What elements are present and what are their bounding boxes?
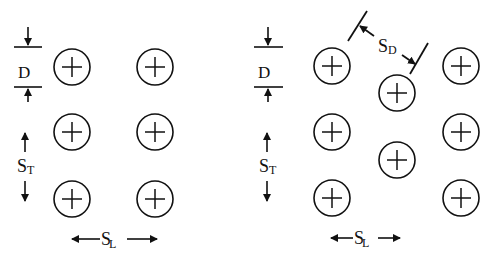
arrow-up-left-icon [360, 26, 374, 36]
aligned-tubes [54, 49, 173, 217]
tube-icon [379, 142, 415, 178]
staggered-tubes [314, 48, 479, 216]
tube-icon [137, 49, 173, 85]
longitudinal-pitch-label: SL [354, 228, 369, 250]
tube-icon [443, 180, 479, 216]
tube-icon [137, 114, 173, 150]
tube-icon [54, 181, 90, 217]
arrow-down-right-icon [402, 55, 415, 64]
extension-line [348, 11, 367, 41]
tube-icon [443, 48, 479, 84]
tube-bank-diagram: D ST SL D [0, 0, 499, 264]
diameter-label: D [258, 63, 270, 82]
tube-icon [443, 114, 479, 150]
diagram-canvas: D ST SL D [0, 0, 499, 264]
aligned-panel: D ST SL [14, 27, 173, 251]
transverse-pitch-label: ST [259, 156, 277, 177]
tube-icon [54, 49, 90, 85]
longitudinal-pitch-label: SL [101, 229, 116, 251]
tube-icon [314, 48, 350, 84]
tube-icon [314, 114, 350, 150]
tube-icon [54, 114, 90, 150]
diameter-label: D [18, 63, 30, 82]
diagonal-pitch-label: SD [378, 36, 397, 57]
transverse-pitch-label: ST [17, 156, 35, 177]
tube-icon [137, 181, 173, 217]
staggered-panel: D ST SL SD [254, 11, 479, 250]
tube-icon [379, 75, 415, 111]
tube-icon [314, 180, 350, 216]
extension-line [410, 43, 428, 74]
